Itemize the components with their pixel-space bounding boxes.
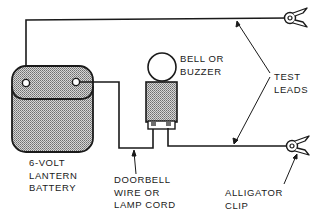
bell-label-line-2: BUZZER [180,66,224,79]
battery-label-line-3: BATTERY [29,182,78,195]
clip-label-line-1: ALLIGATOR [225,187,283,200]
battery-label: 6-VOLT LANTERN BATTERY [29,157,78,195]
clip-label-line-2: CLIP [225,200,283,213]
test-leads-label-line-1: TEST [274,71,308,84]
leader-test-leads-top [237,22,270,73]
battery-terminal-left [22,79,29,86]
test-leads-label: TEST LEADS [274,71,308,96]
bell-label-line-1: BELL OR [180,53,224,66]
diagram-canvas: BELL OR BUZZER TEST LEADS 6-VOLT LANTERN… [0,0,322,219]
bell-label: BELL OR BUZZER [180,53,224,78]
wire-label-line-2: WIRE OR [114,187,176,200]
battery-icon [12,66,93,152]
leader-test-leads-bottom [235,77,270,143]
test-leads-label-line-2: LEADS [274,84,308,97]
leader-alligator-clip [284,156,296,184]
alligator-clip-bottom-icon [287,136,310,155]
battery-label-line-2: LANTERN [29,170,78,183]
battery-terminal-right [72,78,79,85]
wire-label-line-1: DOORBELL [114,174,176,187]
alligator-clip-top-icon [285,8,308,27]
battery-label-line-1: 6-VOLT [29,157,78,170]
bottom-test-lead [168,128,288,146]
wire-label: DOORBELL WIRE OR LAMP CORD [114,174,176,212]
alligator-clip-label: ALLIGATOR CLIP [225,187,283,212]
wire-label-line-3: LAMP CORD [114,199,176,212]
bell-icon [146,53,177,129]
